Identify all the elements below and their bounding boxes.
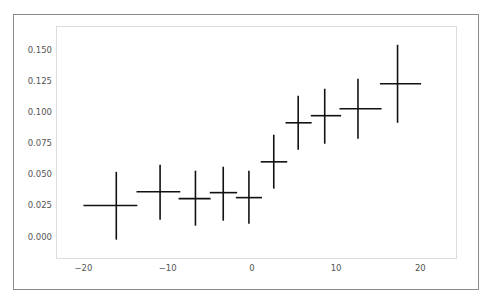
y-tick-label: 0.050	[28, 169, 52, 179]
y-tick-label: 0.150	[28, 45, 52, 55]
y-tick-label: 0.125	[28, 76, 52, 86]
y-tick-label: 0.100	[28, 107, 52, 117]
x-tick-label: 10	[331, 263, 342, 273]
x-tick-label: −10	[159, 263, 177, 273]
y-tick-label: 0.025	[28, 200, 52, 210]
errorbar-chart: 0.0000.0250.0500.0750.1000.1250.150 −20−…	[0, 0, 491, 303]
x-tick-label: −20	[74, 263, 92, 273]
y-tick-label: 0.000	[28, 232, 52, 242]
x-tick-label: 20	[415, 263, 426, 273]
x-tick-label: 0	[249, 263, 254, 273]
y-tick-label: 0.075	[28, 138, 52, 148]
